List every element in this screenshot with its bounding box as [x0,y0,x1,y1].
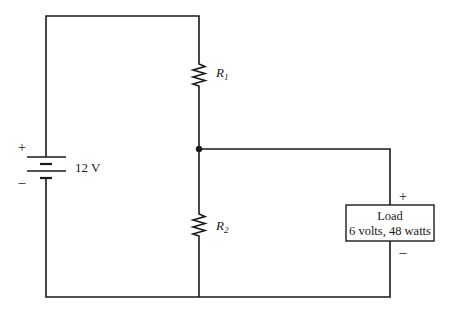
junction-node [196,146,202,152]
battery-symbol: + – 12 V [18,140,102,190]
wire-top-left [46,16,199,157]
r2-label: R2 [215,218,229,235]
load-plus-sign: + [399,189,407,204]
resistor-r2: R2 [193,210,229,240]
battery-minus-sign: – [18,175,27,190]
load-minus-sign: – [399,245,408,260]
resistor-r1: R1 [193,60,228,88]
load-rating: 6 volts, 48 watts [349,224,431,238]
wire-junction-to-load [199,149,390,205]
wire-bottom-right [199,241,390,297]
load-title: Load [377,209,403,223]
circuit-diagram: + – 12 V R1 R2 Load 6 volts, 48 watts + … [0,0,455,316]
wires [46,16,390,297]
battery-voltage-label: 12 V [75,160,101,175]
battery-plus-sign: + [18,140,26,155]
r1-label: R1 [215,65,228,82]
wire-bottom-left [46,178,199,297]
